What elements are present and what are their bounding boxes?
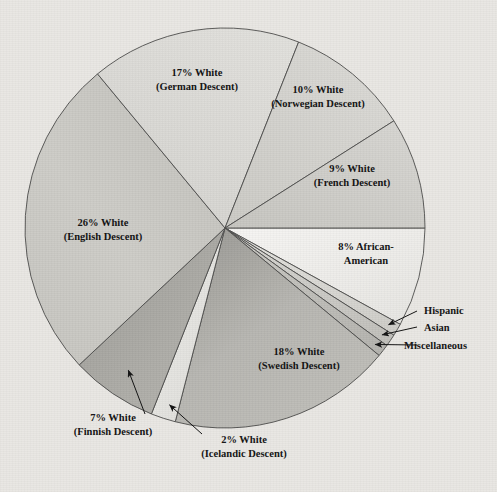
slice-label-miscellaneous: Miscellaneous: [404, 340, 467, 351]
pie-chart-svg: 8% African-AmericanHispanicAsianMiscella…: [0, 0, 497, 492]
slice-label-hispanic: Hispanic: [424, 305, 464, 316]
pie-chart-figure: 8% African-AmericanHispanicAsianMiscella…: [0, 0, 497, 492]
slice-label-finnish: 7% White(Finnish Descent): [74, 412, 153, 438]
slice-label-asian: Asian: [424, 322, 450, 333]
slice-label-icelandic: 2% White(Icelandic Descent): [201, 434, 287, 460]
